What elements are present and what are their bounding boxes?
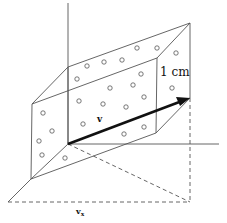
particle <box>139 72 143 76</box>
front-top-edge <box>32 58 157 104</box>
particle <box>63 156 67 160</box>
ground-extension <box>8 179 31 202</box>
vector-label: v <box>96 114 103 124</box>
particle <box>81 122 85 126</box>
particle <box>122 132 126 136</box>
particle <box>142 95 146 99</box>
parallelepiped <box>8 23 190 202</box>
particle <box>120 58 124 62</box>
length-label: 1 cm <box>160 65 190 79</box>
particle <box>50 129 54 133</box>
particle <box>135 46 139 50</box>
particle <box>155 46 159 50</box>
front-left-edge <box>31 104 32 179</box>
projection-diagonal <box>68 144 190 202</box>
particle <box>131 83 135 87</box>
velocity-vector <box>68 97 190 144</box>
particle <box>85 64 89 68</box>
particle <box>77 99 81 103</box>
diagram-canvas: 1 cm v vx <box>0 0 227 223</box>
connect-bottom-left <box>31 144 68 179</box>
front-right-edge <box>156 58 157 133</box>
connect-top-left <box>32 67 68 104</box>
back-top-edge <box>68 23 190 67</box>
particle <box>174 51 178 55</box>
particle <box>102 60 106 64</box>
particle <box>37 139 41 143</box>
particle <box>124 105 128 109</box>
particle <box>75 77 79 81</box>
particle <box>41 111 45 115</box>
particle <box>108 86 112 90</box>
particle <box>40 153 44 157</box>
particle <box>101 102 105 106</box>
particle <box>170 86 174 90</box>
projection-label-subscript: x <box>81 210 85 217</box>
projection-label: vx <box>75 206 85 217</box>
particle <box>142 125 146 129</box>
